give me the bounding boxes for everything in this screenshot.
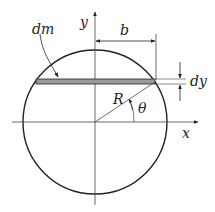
- angle-arc: [130, 102, 134, 122]
- dy-label: dy: [190, 73, 208, 89]
- y-axis-label: y: [79, 14, 89, 30]
- dm-label: dm: [32, 21, 54, 37]
- mass-strip: [36, 79, 155, 84]
- theta-label: θ: [138, 100, 147, 116]
- dm-leader: [40, 34, 58, 77]
- b-label: b: [120, 22, 129, 38]
- r-label: R: [112, 91, 124, 107]
- x-axis-label: x: [182, 125, 190, 141]
- circle-mass-element-diagram: y x dm b dy R θ: [0, 0, 215, 212]
